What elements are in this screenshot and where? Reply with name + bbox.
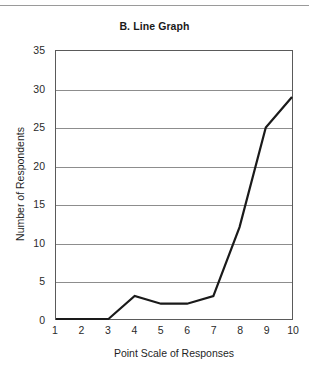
y-axis-tick-label: 10 [33, 238, 45, 249]
line-series [56, 51, 292, 319]
x-axis-tick-label: 10 [287, 325, 299, 336]
plot-area [55, 50, 293, 320]
y-axis-tick-label: 0 [39, 315, 45, 326]
x-axis-tick-label: 2 [79, 325, 85, 336]
y-axis-tick-labels: 05101520253035 [0, 0, 53, 374]
series-polyline [56, 97, 292, 319]
x-axis-tick-label: 1 [52, 325, 58, 336]
y-axis-tick-label: 30 [33, 83, 45, 94]
y-axis-tick-label: 25 [33, 122, 45, 133]
y-axis-tick-label: 15 [33, 199, 45, 210]
x-axis-tick-label: 7 [211, 325, 217, 336]
x-axis-title: Point Scale of Responses [55, 347, 293, 359]
y-axis-tick-label: 5 [39, 276, 45, 287]
x-axis-tick-labels: 12345678910 [55, 325, 293, 341]
x-axis-tick-label: 3 [105, 325, 111, 336]
x-axis-tick-label: 8 [237, 325, 243, 336]
x-axis-tick-label: 9 [264, 325, 270, 336]
y-axis-tick-label: 35 [33, 45, 45, 56]
y-axis-title: Number of Respondents [14, 74, 26, 294]
y-axis-tick-label: 20 [33, 160, 45, 171]
x-axis-tick-label: 6 [184, 325, 190, 336]
x-axis-tick-label: 4 [131, 325, 137, 336]
x-axis-tick-label: 5 [158, 325, 164, 336]
